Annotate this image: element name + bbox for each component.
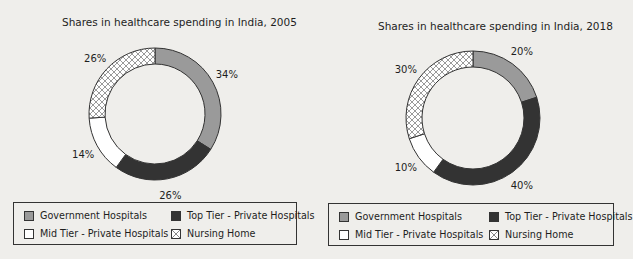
donut-chart-2005: 34%26%14%26% [0,0,310,200]
grey-swatch-icon [339,212,349,222]
segment-government [155,48,221,149]
percent-label: 30% [395,64,417,75]
legend-label: Government Hospitals [40,210,147,221]
percent-label: 20% [511,46,533,57]
legend-item-government: Government Hospitals [24,210,147,221]
legend-label: Top Tier - Private Hospitals [505,211,633,222]
dark-swatch-icon [489,212,499,222]
donut-chart-2018: 20%40%10%30% [310,0,623,200]
legend-item-top-tier: Top Tier - Private Hospitals [489,211,633,222]
legend-item-government: Government Hospitals [339,211,462,222]
percent-label: 34% [216,69,238,80]
legend: Government Hospitals Top Tier - Private … [328,203,614,246]
legend-item-mid-tier: Mid Tier - Private Hospitals [339,229,483,240]
percent-label: 40% [511,180,533,191]
percent-label: 14% [72,149,94,160]
white-swatch-icon [24,229,34,239]
hatch-swatch-icon [489,230,499,240]
legend-item-top-tier: Top Tier - Private Hospitals [171,210,315,221]
percent-label: 10% [395,162,417,173]
dark-swatch-icon [171,211,181,221]
segment-government [473,51,537,102]
percent-label: 26% [159,190,181,201]
legend-label: Government Hospitals [355,211,462,222]
chart-panel-2005: Shares in healthcare spending in India, … [0,0,310,259]
legend-item-nursing-home: Nursing Home [489,229,573,240]
legend-item-nursing-home: Nursing Home [171,228,255,239]
percent-label: 26% [84,53,106,64]
chart-panel-2018: Shares in healthcare spending in India, … [310,0,623,259]
segment-top-tier [434,97,540,185]
legend-label: Nursing Home [505,229,573,240]
legend: Government Hospitals Top Tier - Private … [13,202,297,245]
legend-item-mid-tier: Mid Tier - Private Hospitals [24,228,168,239]
white-swatch-icon [339,230,349,240]
grey-swatch-icon [24,211,34,221]
legend-label: Mid Tier - Private Hospitals [40,228,168,239]
legend-label: Mid Tier - Private Hospitals [355,229,483,240]
segment-top-tier [116,141,211,180]
legend-label: Nursing Home [187,228,255,239]
hatch-swatch-icon [171,229,181,239]
legend-label: Top Tier - Private Hospitals [187,210,315,221]
segment-mid-tier [89,117,125,167]
